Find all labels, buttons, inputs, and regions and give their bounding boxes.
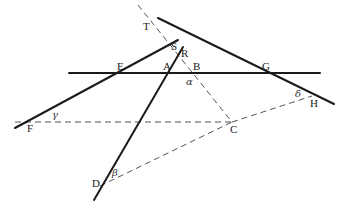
point-label-R: R (181, 47, 189, 59)
point-label-E: E (117, 60, 124, 72)
geometry-diagram: T S R E A B G F C H D α β γ δ (0, 0, 340, 209)
point-label-T: T (143, 20, 150, 32)
angle-label-alpha: α (186, 76, 193, 87)
angle-label-gamma: γ (52, 109, 58, 120)
point-label-B: B (193, 60, 200, 72)
figure-caption-cropped (155, 204, 205, 209)
dashed-line-CH (232, 96, 312, 122)
point-label-A: A (163, 60, 171, 72)
line-FS (15, 40, 178, 128)
point-label-H: H (310, 97, 318, 109)
point-label-F: F (27, 122, 33, 134)
line-TH (158, 18, 334, 104)
angle-label-beta: β (111, 167, 118, 178)
point-label-D: D (92, 177, 100, 189)
point-label-S: S (171, 40, 177, 52)
dashed-line-TC (138, 5, 232, 122)
point-label-G: G (262, 60, 270, 72)
angle-label-delta: δ (295, 88, 301, 99)
point-label-C: C (230, 123, 237, 135)
